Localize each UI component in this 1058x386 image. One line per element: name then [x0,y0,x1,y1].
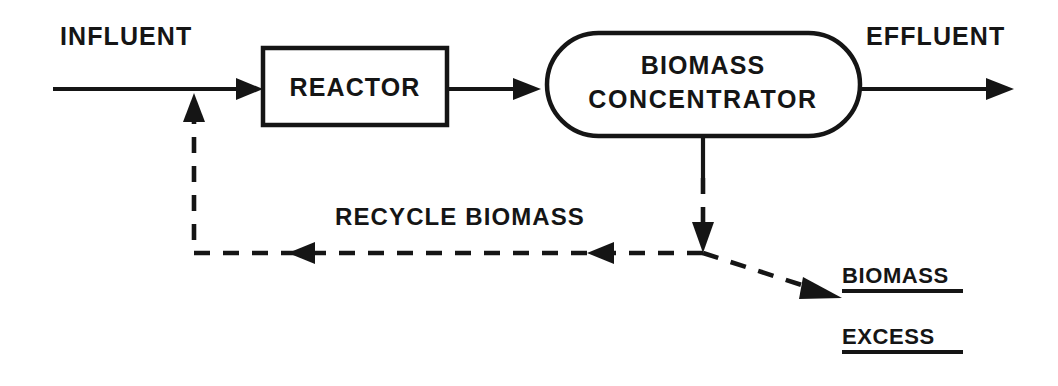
biomass-concentrator-unit: BIOMASS CONCENTRATOR [547,33,860,136]
influent-arrowhead-icon [236,78,263,100]
recycle-arrowhead-right-icon [587,242,614,264]
underflow-drop-stream [692,136,714,253]
excess-biomass-destination-label: BIOMASS EXCESS [842,263,963,352]
excess-biomass-denominator: EXCESS [842,324,935,349]
effluent-stream [860,78,1014,100]
diagram-canvas: REACTOR BIOMASS CONCENTRATOR [0,0,1058,386]
underflow-arrowhead-icon [692,222,714,253]
recycle-arrowhead-mid-icon [288,242,315,264]
recycle-biomass-label: RECYCLE BIOMASS [335,203,585,230]
excess-biomass-numerator: BIOMASS [842,263,949,288]
reactor-unit: REACTOR [263,48,447,125]
excess-diagonal-line [703,253,811,288]
influent-label: INFLUENT [60,22,192,50]
recycle-arrowhead-up-icon [183,93,205,122]
excess-arrowhead-icon [799,277,842,299]
biomass-concentrator-label-line2: CONCENTRATOR [588,85,817,113]
biomass-concentrator-label-line1: BIOMASS [641,51,765,79]
reactor-label: REACTOR [290,73,421,101]
recycle-path [194,112,703,253]
reactor-to-concentrator-stream [447,78,541,100]
effluent-arrowhead-icon [986,78,1014,100]
reactor-outlet-arrowhead-icon [513,78,541,100]
effluent-label: EFFLUENT [866,22,1005,50]
excess-biomass-stream [703,253,842,299]
influent-stream [53,78,263,100]
process-flow-diagram: REACTOR BIOMASS CONCENTRATOR [0,0,1058,386]
